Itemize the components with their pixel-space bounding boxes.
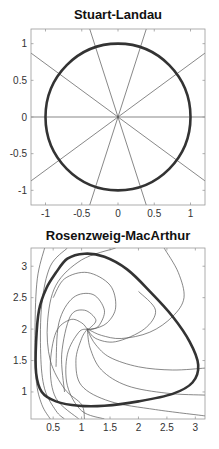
x-tick-label: -1 xyxy=(41,208,50,219)
x-tick-label: 1 xyxy=(188,208,194,219)
trajectory-curve xyxy=(62,310,96,392)
y-tick-label: 1.5 xyxy=(13,355,27,366)
stuart-landau-plot-area xyxy=(0,0,219,326)
y-tick-label: -1 xyxy=(18,185,27,196)
y-tick-label: 2.5 xyxy=(13,292,27,303)
trajectory-curve xyxy=(87,291,155,342)
x-tick-label: -0.5 xyxy=(73,208,91,219)
radial-trajectory-line xyxy=(51,0,185,326)
x-tick-label: 0.5 xyxy=(46,422,60,433)
trajectory-curve xyxy=(87,248,184,339)
rosenzweig-macarthur-panel: Rosenzweig-MacArthur 0.511.522.5311.522.… xyxy=(13,228,205,433)
stuart-landau-title: Stuart-Landau xyxy=(74,7,162,22)
rosenzweig-macarthur-title: Rosenzweig-MacArthur xyxy=(46,228,190,243)
radial-trajectory-line xyxy=(0,0,219,246)
y-tick-label: 0.5 xyxy=(13,75,27,86)
x-tick-label: 0.5 xyxy=(147,208,161,219)
y-tick-label: 3 xyxy=(21,261,27,272)
y-tick-label: 2 xyxy=(21,324,27,335)
x-tick-label: 1 xyxy=(79,422,85,433)
limit-cycle-curve xyxy=(36,254,199,407)
y-tick-label: 1 xyxy=(21,38,27,49)
y-tick-label: -0.5 xyxy=(10,148,28,159)
x-tick-label: 3 xyxy=(193,422,199,433)
y-tick-label: 0 xyxy=(21,112,27,123)
trajectory-curve xyxy=(56,293,105,366)
stuart-landau-panel: Stuart-Landau -1-0.500.51-1-0.500.51 xyxy=(0,0,219,326)
y-tick-label: 1 xyxy=(21,386,27,397)
rosenzweig-macarthur-plot-area xyxy=(35,248,205,419)
figure: Stuart-Landau -1-0.500.51-1-0.500.51 Ros… xyxy=(0,0,219,449)
trajectory-curve xyxy=(53,272,116,329)
radial-trajectory-line xyxy=(51,0,185,326)
x-tick-label: 1.5 xyxy=(103,422,117,433)
x-tick-label: 2 xyxy=(136,422,142,433)
trajectory-curve xyxy=(76,329,205,416)
x-tick-label: 0 xyxy=(115,208,121,219)
x-tick-label: 2.5 xyxy=(160,422,174,433)
